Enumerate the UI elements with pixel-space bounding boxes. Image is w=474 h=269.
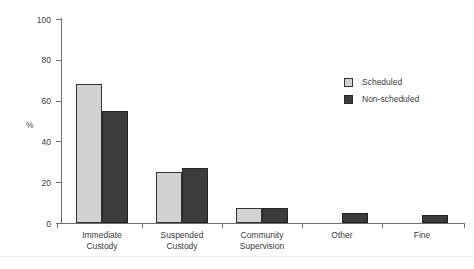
- x-axis-separator: [57, 223, 58, 228]
- x-axis-category-label-line: Suspended: [142, 230, 222, 241]
- y-axis-tick-label: 80: [42, 56, 51, 65]
- bar[interactable]: [102, 111, 128, 223]
- x-axis-category-label: ImmediateCustody: [62, 230, 142, 251]
- legend-swatch-scheduled: [344, 78, 353, 87]
- legend-label-scheduled: Scheduled: [362, 78, 402, 87]
- x-axis-separator: [142, 223, 143, 228]
- bar[interactable]: [262, 208, 288, 223]
- plot-area: [62, 19, 462, 223]
- legend: Scheduled Non-scheduled: [344, 74, 419, 108]
- x-axis-category-label-line: Other: [302, 230, 382, 241]
- bar[interactable]: [422, 215, 448, 223]
- x-axis-category-label-line: Supervision: [222, 241, 302, 252]
- x-axis-separator: [222, 223, 223, 228]
- x-axis-separator: [464, 223, 465, 228]
- legend-label-non-scheduled: Non-scheduled: [362, 95, 419, 104]
- y-axis-tick-label: 20: [42, 178, 51, 187]
- bar[interactable]: [76, 84, 102, 223]
- x-axis-category-label: Other: [302, 230, 382, 241]
- y-axis-tick-label: 60: [42, 97, 51, 106]
- bar[interactable]: [182, 168, 208, 223]
- legend-item-non-scheduled[interactable]: Non-scheduled: [344, 91, 419, 108]
- legend-item-scheduled[interactable]: Scheduled: [344, 74, 419, 91]
- x-axis-category-label: Fine: [382, 230, 462, 241]
- y-axis-title: %: [26, 121, 34, 130]
- bar[interactable]: [236, 208, 262, 223]
- x-axis-category-label-line: Custody: [62, 241, 142, 252]
- x-axis-category-label-line: Community: [222, 230, 302, 241]
- y-axis-tick-label: 100: [37, 15, 51, 24]
- x-axis-separator: [302, 223, 303, 228]
- footer-rule: [0, 256, 474, 257]
- bar[interactable]: [156, 172, 182, 223]
- x-axis-category-label-line: Immediate: [62, 230, 142, 241]
- bar[interactable]: [342, 213, 368, 223]
- x-axis-category-label: SuspendedCustody: [142, 230, 222, 251]
- bar-chart: % 020406080100 ImmediateCustodySuspended…: [0, 0, 474, 269]
- x-axis-separator: [382, 223, 383, 228]
- x-axis-line: [57, 223, 464, 224]
- legend-swatch-non-scheduled: [344, 95, 353, 104]
- y-axis-tick-label: 0: [46, 219, 51, 228]
- y-axis-tick-label: 40: [42, 138, 51, 147]
- x-axis-category-label-line: Custody: [142, 241, 222, 252]
- x-axis-category-label: CommunitySupervision: [222, 230, 302, 251]
- x-axis-category-label-line: Fine: [382, 230, 462, 241]
